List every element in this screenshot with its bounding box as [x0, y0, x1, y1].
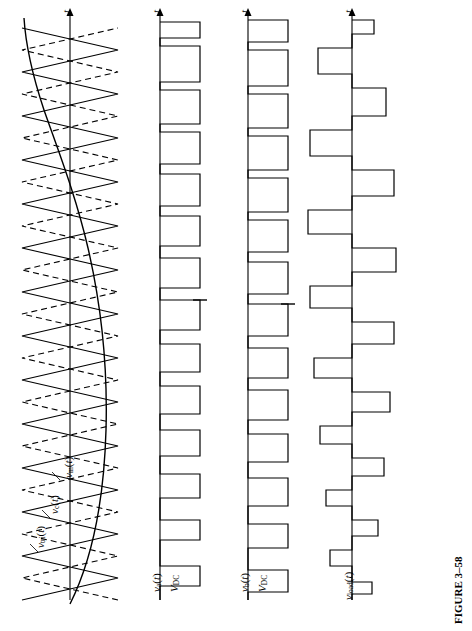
- panel-2-label-vdc: VDC: [168, 575, 181, 592]
- panel-4-label-t-axis: t: [342, 10, 354, 13]
- figure-page: vtri(t) vc(t) vm(t) t va(t) VDC t vb(t) …: [0, 0, 472, 631]
- panel-3-label-v-b: vb(t): [238, 573, 251, 592]
- figure-caption: FIGURE 3–58: [452, 556, 464, 624]
- panel-2-label-t-axis: t: [150, 10, 162, 13]
- panel-1-label-v-c: vc(t): [48, 495, 61, 514]
- panel-1-label-v-m: vm(t): [62, 457, 75, 478]
- panel-4-label-v-load: vload(t): [342, 572, 355, 600]
- panel-2-pwm-waveform: [160, 22, 200, 600]
- panel-3-label-vdc: VDC: [256, 575, 269, 592]
- panel-1-label-v-tri: vtri(t): [34, 526, 47, 548]
- panel-1-label-t-axis: t: [60, 10, 72, 13]
- panel-2-label-v-a: va(t): [150, 573, 163, 592]
- panel-3-label-t-axis: t: [238, 10, 250, 13]
- panel-3-pwm-waveform: [248, 20, 288, 600]
- figure-waveforms: [0, 0, 472, 631]
